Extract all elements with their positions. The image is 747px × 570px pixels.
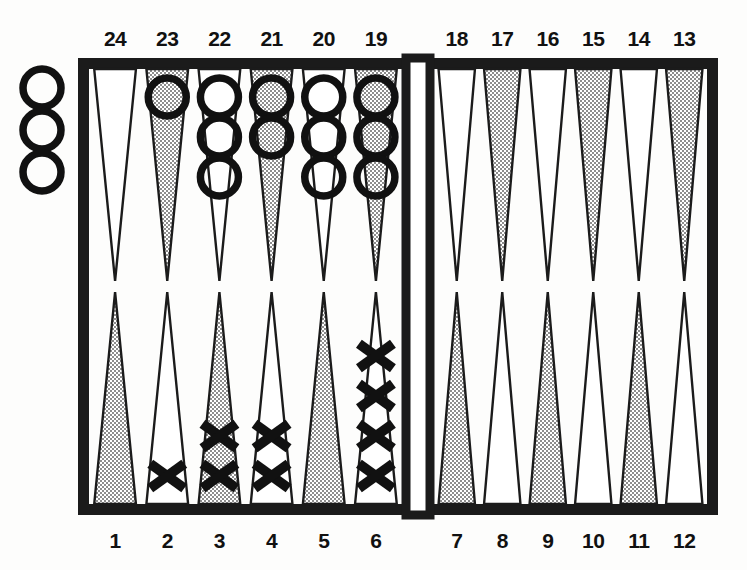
top-label-15: 15 (582, 27, 605, 50)
top-label-17: 17 (491, 27, 513, 50)
bottom-label-2: 2 (162, 529, 173, 552)
frame-top-rail (78, 58, 718, 69)
bottom-label-11: 11 (628, 529, 650, 552)
bottom-label-8: 8 (497, 529, 509, 552)
center-bar[interactable] (406, 58, 430, 515)
bottom-label-12: 12 (673, 529, 695, 552)
top-label-19: 19 (365, 27, 387, 50)
bottom-label-9: 9 (542, 529, 553, 552)
top-label-14: 14 (628, 27, 651, 50)
bottom-label-5: 5 (318, 529, 330, 552)
top-label-22: 22 (208, 27, 230, 50)
top-label-20: 20 (313, 27, 335, 50)
frame-bottom-rail (78, 504, 718, 515)
top-label-24: 24 (104, 27, 127, 50)
top-label-16: 16 (537, 27, 559, 50)
frame-left-rail (78, 58, 89, 515)
bottom-label-6: 6 (370, 529, 381, 552)
bottom-label-7: 7 (451, 529, 462, 552)
backgammon-diagram: 242322212019181716151413123456789101112 … (0, 0, 747, 570)
bottom-label-3: 3 (214, 529, 225, 552)
top-label-18: 18 (446, 27, 469, 50)
bottom-label-10: 10 (582, 529, 604, 552)
bottom-label-1: 1 (109, 529, 121, 552)
top-label-13: 13 (673, 27, 695, 50)
backgammon-board: 242322212019181716151413123456789101112 (0, 0, 747, 570)
bottom-label-4: 4 (266, 529, 278, 552)
top-label-23: 23 (156, 27, 178, 50)
frame-right-rail (707, 58, 718, 515)
top-label-21: 21 (260, 27, 283, 50)
